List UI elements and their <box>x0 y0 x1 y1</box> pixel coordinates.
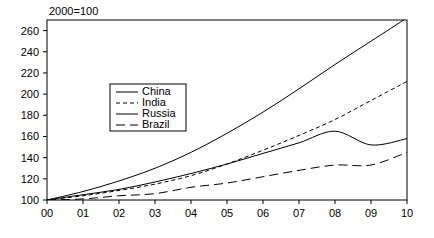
x-axis-tick-label: 05 <box>221 207 233 219</box>
series-line-china <box>47 18 407 200</box>
y-axis-tick-label: 100 <box>21 194 39 206</box>
series-line-india <box>47 81 407 200</box>
x-axis-tick-label: 07 <box>293 207 305 219</box>
y-axis-labels: 100120140160180200220240260 <box>21 25 39 206</box>
y-axis-tick-label: 180 <box>21 109 39 121</box>
x-axis-tick-label: 00 <box>41 207 53 219</box>
line-chart: 100120140160180200220240260 000102030405… <box>0 0 434 238</box>
legend-label-brazil: Brazil <box>142 118 170 130</box>
y-axis-tick-label: 200 <box>21 88 39 100</box>
y-axis-tick-label: 220 <box>21 67 39 79</box>
y-axis-tick-label: 120 <box>21 173 39 185</box>
x-axis-tick-label: 08 <box>329 207 341 219</box>
x-axis-tick-label: 03 <box>149 207 161 219</box>
x-axis-tick-label: 01 <box>77 207 89 219</box>
x-axis-tick-label: 06 <box>257 207 269 219</box>
x-axis-labels: 0001020304050607080910 <box>41 207 413 219</box>
series-line-brazil <box>47 152 407 200</box>
y-axis-tick-label: 240 <box>21 46 39 58</box>
x-axis-tick-label: 04 <box>185 207 197 219</box>
plot-frame <box>47 20 407 200</box>
x-axis-tick-label: 09 <box>365 207 377 219</box>
y-axis-tick-label: 140 <box>21 152 39 164</box>
chart-title: 2000=100 <box>49 5 98 17</box>
y-axis-tick-label: 260 <box>21 25 39 37</box>
data-series-group <box>47 18 407 200</box>
x-axis-tick-label: 10 <box>401 207 413 219</box>
chart-legend: ChinaIndiaRussiaBrazil <box>110 84 186 131</box>
x-axis-tick-label: 02 <box>113 207 125 219</box>
x-axis-ticks <box>47 200 407 204</box>
y-axis-tick-label: 160 <box>21 130 39 142</box>
chart-container: 100120140160180200220240260 000102030405… <box>0 0 434 238</box>
y-axis-ticks <box>43 31 47 200</box>
